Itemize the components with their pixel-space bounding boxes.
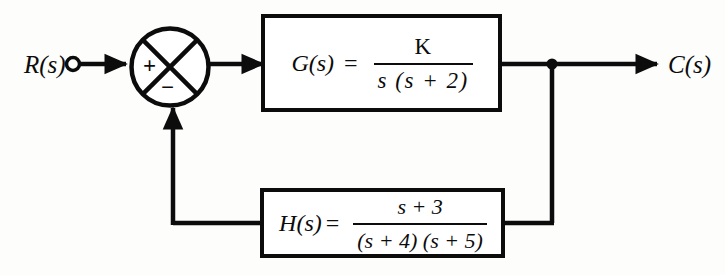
feedback-block-numerator: s + 3 xyxy=(393,194,446,220)
summing-junction-minus-sign: − xyxy=(161,76,174,99)
feedback-block-equals: = xyxy=(326,210,340,237)
forward-block-function-label: G(s) xyxy=(291,50,334,77)
feedback-block-content: H(s) = s + 3 (s + 4) (s + 5) xyxy=(262,190,504,257)
forward-block-fraction: K s (s + 2) xyxy=(374,34,473,94)
output-signal-label: C(s) xyxy=(668,52,711,77)
block-diagram: R(s) C(s) + − G(s) = K s (s + 2) H(s) = … xyxy=(0,0,725,275)
forward-block-fraction-bar xyxy=(374,63,473,65)
input-signal-label: R(s) xyxy=(24,52,66,77)
forward-block-denominator: s (s + 2) xyxy=(374,68,473,94)
feedback-block-fraction: s + 3 (s + 4) (s + 5) xyxy=(353,194,487,254)
feedback-block-denominator: (s + 4) (s + 5) xyxy=(353,228,487,254)
forward-block-content: G(s) = K s (s + 2) xyxy=(263,16,501,111)
summing-junction-plus-sign: + xyxy=(143,54,156,77)
feedback-block-function-label: H(s) xyxy=(279,210,322,237)
forward-block-equals: = xyxy=(344,50,358,77)
input-terminal-circle xyxy=(67,58,80,71)
feedback-block-fraction-bar xyxy=(353,223,487,225)
forward-block-numerator: K xyxy=(411,34,436,60)
